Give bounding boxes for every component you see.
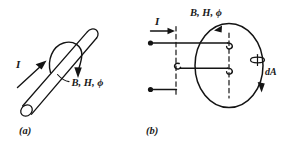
- panel-caption-b: (b): [146, 125, 158, 137]
- current-label-a: I: [15, 58, 21, 70]
- current-arrow-head: [36, 61, 47, 70]
- coil-wire-top: [151, 43, 233, 49]
- current-arrow-b: [151, 28, 176, 34]
- field-label-a: B, H, ϕ: [71, 77, 104, 88]
- field-label-b: B, H, ϕ: [189, 7, 222, 18]
- panel-a: I B, H, ϕ (a): [15, 29, 103, 137]
- current-arrow-head-b: [168, 28, 176, 34]
- panel-caption-a: (a): [19, 125, 31, 137]
- coil-wire-middle: [175, 63, 233, 74]
- area-element-label: dA: [265, 66, 277, 77]
- figure-container: I B, H, ϕ (a): [0, 0, 293, 147]
- current-arrow-shaft: [18, 65, 43, 88]
- cylindrical-rod: [18, 29, 98, 119]
- rod-end-cap-right: [88, 29, 99, 38]
- panel-b: B, H, ϕ I dA (b): [146, 7, 277, 137]
- current-label-b: I: [154, 15, 160, 27]
- rod-end-cap-left: [18, 102, 34, 118]
- figure-svg: I B, H, ϕ (a): [0, 0, 293, 147]
